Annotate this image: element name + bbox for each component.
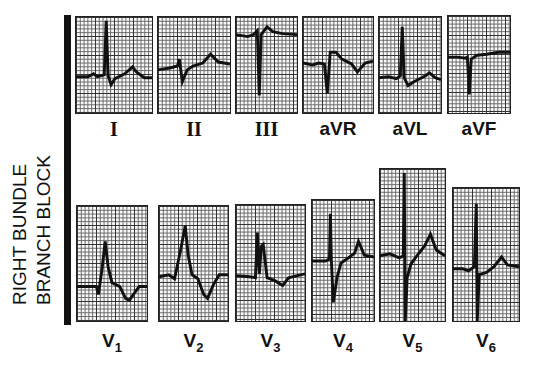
lead-label-avr: aVR bbox=[302, 118, 374, 140]
lead-label-v3-sub: 3 bbox=[273, 340, 280, 355]
lead-label-v1: V1 bbox=[76, 330, 148, 355]
ecg-panel-lead-i bbox=[75, 16, 153, 114]
lead-label-i: I bbox=[75, 118, 153, 141]
ecg-panel-lead-iii bbox=[235, 16, 298, 114]
ecg-panel-lead-avr bbox=[302, 16, 374, 114]
ecg-panel-lead-avf bbox=[447, 15, 511, 114]
ecg-panel-lead-v3 bbox=[235, 204, 306, 322]
side-title: RIGHT BUNDLE BRANCH BLOCK bbox=[6, 50, 56, 310]
lead-label-v2: V2 bbox=[158, 330, 229, 355]
lead-label-v2-sub: 2 bbox=[196, 340, 203, 355]
lead-label-avl: aVL bbox=[378, 118, 442, 140]
lead-label-v3: V3 bbox=[235, 330, 306, 355]
ecg-panel-lead-avl bbox=[378, 16, 442, 114]
lead-label-v4: V4 bbox=[311, 330, 375, 355]
ecg-panel-lead-v5 bbox=[379, 168, 446, 322]
lead-label-v5-text: V bbox=[403, 330, 416, 351]
lead-label-avf: aVF bbox=[447, 118, 511, 140]
ecg-panel-lead-v4 bbox=[311, 199, 375, 322]
ecg-panel-lead-ii bbox=[157, 16, 231, 114]
lead-label-v3-text: V bbox=[261, 330, 274, 351]
lead-label-v5-sub: 5 bbox=[415, 340, 422, 355]
lead-label-v6: V6 bbox=[452, 330, 520, 355]
lead-label-v1-sub: 1 bbox=[115, 340, 122, 355]
lead-label-v5: V5 bbox=[379, 330, 446, 355]
lead-label-v4-sub: 4 bbox=[346, 340, 353, 355]
divider-bar bbox=[64, 15, 71, 325]
ecg-panel-lead-v1 bbox=[76, 205, 148, 322]
lead-label-v1-text: V bbox=[102, 330, 115, 351]
ecg-panel-lead-v6 bbox=[452, 187, 520, 322]
lead-label-v6-sub: 6 bbox=[489, 340, 496, 355]
lead-label-ii: II bbox=[157, 118, 231, 141]
side-title-line2: BRANCH BLOCK bbox=[33, 155, 54, 305]
lead-label-v4-text: V bbox=[333, 330, 346, 351]
ecg-panel-lead-v2 bbox=[158, 205, 229, 322]
side-title-line1: RIGHT BUNDLE bbox=[9, 164, 30, 305]
lead-label-v2-text: V bbox=[184, 330, 197, 351]
lead-label-v6-text: V bbox=[476, 330, 489, 351]
lead-label-iii: III bbox=[235, 118, 298, 141]
